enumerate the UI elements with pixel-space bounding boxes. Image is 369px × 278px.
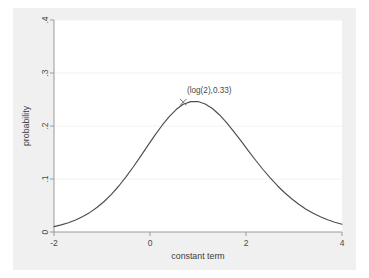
y-axis-tick-label: .2 xyxy=(40,122,50,129)
y-axis-tick-label: .4 xyxy=(40,16,50,23)
x-axis-tick-label: -2 xyxy=(50,238,58,248)
x-axis-tick-label: 2 xyxy=(244,238,249,248)
x-axis-tick-label: 0 xyxy=(148,238,153,248)
y-axis-tick-label: 0 xyxy=(40,229,50,234)
chart-svg: 0.1.2.3.4 -2024 (log(2),0.33) probabilit… xyxy=(13,8,356,270)
figure-region: 0.1.2.3.4 -2024 (log(2),0.33) probabilit… xyxy=(13,8,356,270)
peak-annotation-label: (log(2),0.33) xyxy=(187,86,232,95)
y-axis-tick-label: .1 xyxy=(40,175,50,182)
y-axis-tick-label: .3 xyxy=(40,69,50,76)
y-axis-title: probability xyxy=(21,105,31,146)
x-axis-title: constant term xyxy=(171,251,224,261)
x-axis-tick-label: 4 xyxy=(340,238,345,248)
plot-container: 0.1.2.3.4 -2024 (log(2),0.33) probabilit… xyxy=(13,8,356,270)
